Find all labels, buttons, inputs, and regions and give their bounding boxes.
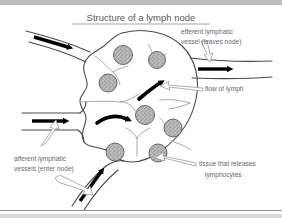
tissue-label-line1: tissue that releases — [199, 160, 257, 167]
bottom-rule — [0, 210, 282, 211]
efferent-label-line1: efferent lymphatic — [181, 28, 234, 36]
lymph-node-diagram: Structure of a lymph node — [0, 0, 282, 218]
follicle — [114, 46, 133, 65]
lymph-node-body — [80, 31, 197, 162]
figure-title: Structure of a lymph node — [87, 12, 196, 23]
tissue-label-line2: lymphocytes — [205, 171, 242, 179]
follicle — [136, 106, 155, 125]
bottom-border-band — [0, 214, 282, 218]
afferent-label-line2: vessels (enter node) — [14, 165, 74, 173]
flow-label: flow of lymph — [205, 85, 244, 93]
afferent-label-line1: afferent lymphatic — [14, 155, 67, 163]
follicle — [99, 74, 117, 92]
afferent-vessel-top-left — [26, 31, 90, 62]
efferent-label-line2: vessel (leaves node) — [181, 38, 241, 46]
follicle — [149, 52, 166, 69]
follicle — [106, 143, 124, 161]
figure-page: Structure of a lymph node — [0, 0, 282, 218]
tissue-pointer-arrow — [155, 152, 196, 166]
follicle — [164, 119, 182, 137]
